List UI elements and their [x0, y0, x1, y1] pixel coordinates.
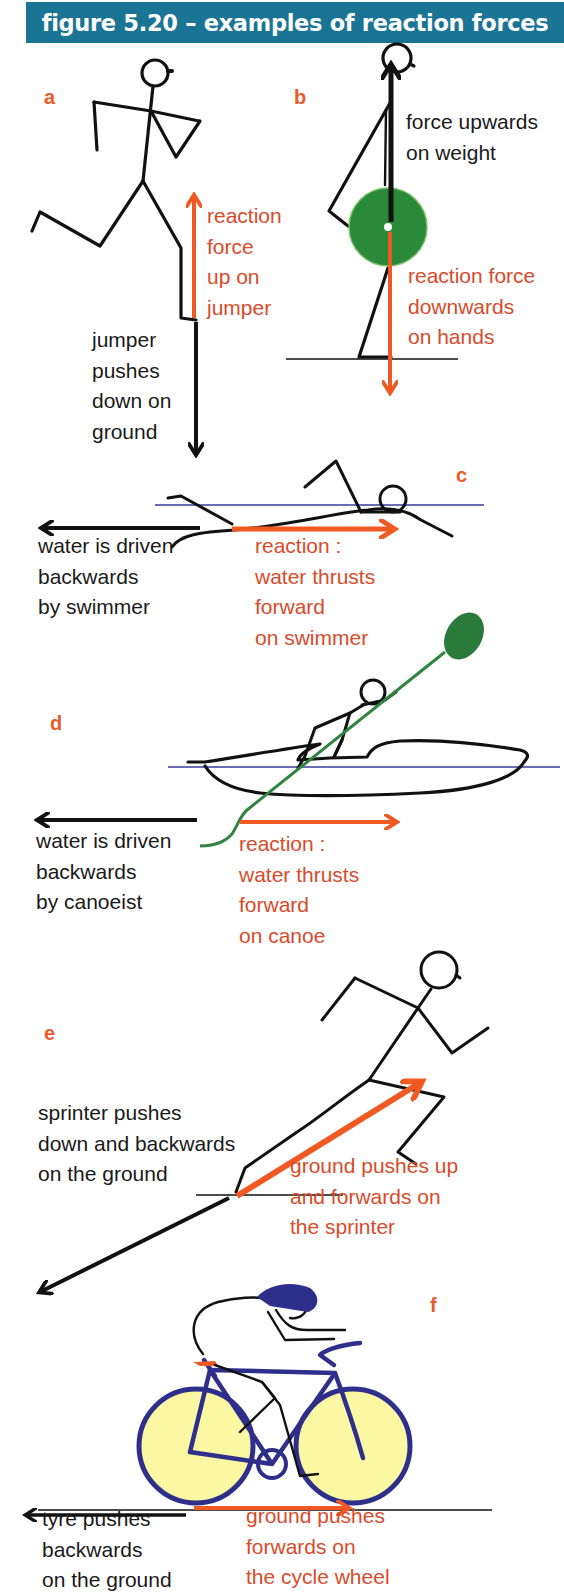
- panel-d-canoeist-figure: [298, 680, 396, 768]
- reaction-forces-illustration: [0, 0, 564, 1596]
- panel-e-reaction-label: ground pushes up and forwards on the spr…: [290, 1151, 458, 1243]
- panel-e-letter: e: [44, 1022, 55, 1045]
- panel-b-reaction-label: reaction force downwards on hands: [408, 261, 535, 353]
- panel-d-letter: d: [50, 712, 62, 735]
- canoe-paddle-shaft: [200, 652, 445, 846]
- panel-a-jumper-figure: [32, 60, 200, 320]
- canoe-paddle-blade: [436, 605, 492, 666]
- panel-c-letter: c: [456, 464, 467, 487]
- panel-f-reaction-label: ground pushes forwards on the cycle whee…: [246, 1501, 390, 1593]
- panel-e-action-label: sprinter pushes down and backwards on th…: [38, 1098, 235, 1190]
- panel-d-reaction-label: reaction : water thrusts forward on cano…: [239, 829, 359, 951]
- panel-d-canoe: [188, 741, 527, 796]
- panel-a-action-label: jumper pushes down on ground: [92, 325, 171, 447]
- panel-a-letter: a: [44, 86, 55, 109]
- panel-d-action-label: water is driven backwards by canoeist: [36, 826, 171, 918]
- panel-c-reaction-label: reaction : water thrusts forward on swim…: [255, 531, 375, 653]
- panel-f-action-label: tyre pushes backwards on the ground: [42, 1504, 172, 1596]
- panel-f-letter: f: [430, 1294, 437, 1317]
- panel-f-bicycle: [139, 1343, 410, 1503]
- panel-c-action-label: water is driven backwards by swimmer: [38, 531, 173, 623]
- panel-a-reaction-label: reaction force up on jumper: [207, 201, 282, 323]
- panel-b-letter: b: [294, 86, 306, 109]
- panel-e-action-arrow: [42, 1198, 229, 1291]
- cyclist-helmet: [257, 1284, 317, 1312]
- panel-b-action-label: force upwards on weight: [406, 107, 538, 168]
